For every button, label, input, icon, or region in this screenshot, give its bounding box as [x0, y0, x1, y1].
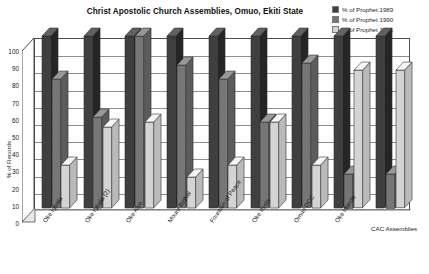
legend-item[interactable]: % of Prophet 1991: [332, 25, 428, 34]
gridline: [35, 177, 409, 178]
legend-swatch-icon: [332, 16, 339, 23]
gridline: [35, 91, 409, 92]
legend-item-label: % of Prophet 1990: [342, 16, 393, 24]
gridline: [35, 125, 409, 126]
plot-back-wall: [34, 38, 410, 210]
y-axis-tick-label: 70: [12, 99, 19, 106]
gridline: [35, 73, 409, 74]
y-axis-tick-label: 10: [12, 202, 19, 209]
legend-item[interactable]: % of Prophet 1990: [332, 15, 428, 24]
legend-swatch-icon: [332, 26, 339, 33]
y-axis-tick-label: 50: [12, 134, 19, 141]
y-axis-tick-label: 80: [12, 82, 19, 89]
legend-item-label: % of Prophet 1989: [342, 6, 393, 14]
x-axis-label: CAC Assemblies: [371, 225, 417, 232]
legend-item-label: % of Prophet 1991: [342, 26, 393, 34]
gridline: [35, 108, 409, 109]
y-axis-tick-label: 30: [12, 168, 19, 175]
gridline: [35, 56, 409, 57]
legend-item[interactable]: % of Prophet 1989: [332, 5, 428, 14]
y-axis: % of Records 1009080706050403020100: [0, 38, 22, 234]
y-axis-tick-label: 40: [12, 151, 19, 158]
y-axis-tick-label: 60: [12, 116, 19, 123]
y-axis-tick-label: 20: [12, 185, 19, 192]
gridline: [35, 142, 409, 143]
y-axis-tick-label: 90: [12, 65, 19, 72]
gridline: [35, 159, 409, 160]
y-axis-title: % of Records: [5, 130, 12, 190]
chart-legend: % of Prophet 1989% of Prophet 1990% of P…: [332, 5, 428, 35]
y-axis-tick-label: 100: [8, 48, 19, 55]
chart-title: Christ Apostolic Church Assemblies, Omuo…: [70, 7, 320, 16]
x-axis-labels: Oke IgbalaOke Igbala (2)Oke AiyoMount Be…: [0, 214, 429, 274]
chart-container: Christ Apostolic Church Assemblies, Omuo…: [0, 0, 429, 274]
legend-swatch-icon: [332, 6, 339, 13]
